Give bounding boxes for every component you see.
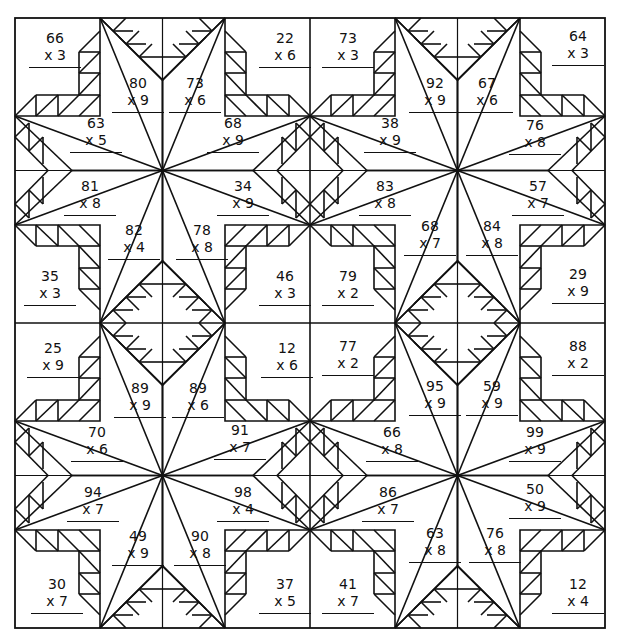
problem-q2-b: 92x 9 xyxy=(405,75,465,113)
multiplier: x 3 xyxy=(548,45,608,62)
multiplier: x 9 xyxy=(108,92,168,109)
answer-line xyxy=(366,461,418,462)
multiplicand: 77 xyxy=(318,338,378,355)
multiplicand: 91 xyxy=(210,422,270,439)
answer-line xyxy=(172,417,224,418)
answer-line xyxy=(214,459,266,460)
problem-q3-g: 94x 7 xyxy=(63,484,123,522)
multiplier: x 7 xyxy=(358,501,418,518)
problem-q2-d: 64x 3 xyxy=(548,28,608,66)
multiplicand: 63 xyxy=(405,525,465,542)
answer-line xyxy=(552,65,604,66)
problem-q4-b: 95x 9 xyxy=(405,378,465,416)
multiplicand: 66 xyxy=(362,424,422,441)
answer-line xyxy=(466,415,518,416)
problem-q3-d: 12x 6 xyxy=(257,340,317,378)
multiplicand: 64 xyxy=(548,28,608,45)
multiplicand: 76 xyxy=(465,525,525,542)
multiplicand: 90 xyxy=(170,528,230,545)
multiplier: x 4 xyxy=(548,593,608,610)
multiplicand: 81 xyxy=(60,178,120,195)
answer-line xyxy=(469,562,521,563)
multiplier: x 6 xyxy=(168,397,228,414)
problem-q1-f: 68x 9 xyxy=(203,115,263,153)
multiplicand: 30 xyxy=(27,576,87,593)
multiplier: x 9 xyxy=(548,283,608,300)
problem-q3-f: 91x 7 xyxy=(210,422,270,460)
problem-q3-c: 89x 6 xyxy=(168,380,228,418)
multiplicand: 94 xyxy=(63,484,123,501)
multiplier: x 3 xyxy=(25,47,85,64)
multiplier: x 8 xyxy=(170,545,230,562)
problem-q4-h: 50x 9 xyxy=(505,481,565,519)
answer-line xyxy=(259,67,311,68)
problem-q4-e: 66x 8 xyxy=(362,424,422,462)
multiplicand: 50 xyxy=(505,481,565,498)
answer-line xyxy=(509,518,561,519)
multiplier: x 6 xyxy=(255,47,315,64)
problem-q2-c: 67x 6 xyxy=(457,75,517,113)
multiplier: x 8 xyxy=(172,239,232,256)
multiplier: x 9 xyxy=(505,498,565,515)
multiplicand: 68 xyxy=(203,115,263,132)
problem-q1-h: 34x 9 xyxy=(213,178,273,216)
multiplier: x 2 xyxy=(548,355,608,372)
multiplicand: 92 xyxy=(405,75,465,92)
problem-q2-g: 83x 8 xyxy=(355,178,415,216)
answer-line xyxy=(552,375,604,376)
multiplicand: 95 xyxy=(405,378,465,395)
multiplier: x 8 xyxy=(465,542,525,559)
problem-q1-g: 81x 8 xyxy=(60,178,120,216)
multiplicand: 88 xyxy=(548,338,608,355)
multiplicand: 67 xyxy=(457,75,517,92)
answer-line xyxy=(466,255,518,256)
answer-line xyxy=(114,417,166,418)
problem-q3-l: 37x 5 xyxy=(255,576,315,614)
multiplicand: 37 xyxy=(255,576,315,593)
problem-q1-k: 35x 3 xyxy=(20,268,80,306)
multiplicand: 83 xyxy=(355,178,415,195)
multiplier: x 5 xyxy=(66,132,126,149)
problem-q4-a: 77x 2 xyxy=(318,338,378,376)
problem-q4-l: 12x 4 xyxy=(548,576,608,614)
multiplicand: 82 xyxy=(104,222,164,239)
multiplier: x 9 xyxy=(462,395,522,412)
multiplier: x 9 xyxy=(405,92,465,109)
answer-line xyxy=(112,112,164,113)
answer-line xyxy=(176,259,228,260)
answer-line xyxy=(64,215,116,216)
multiplicand: 35 xyxy=(20,268,80,285)
problem-q4-d: 88x 2 xyxy=(548,338,608,376)
problem-q2-j: 84x 8 xyxy=(462,218,522,256)
multiplicand: 57 xyxy=(508,178,568,195)
multiplicand: 73 xyxy=(165,75,225,92)
answer-line xyxy=(71,461,123,462)
multiplicand: 38 xyxy=(360,115,420,132)
multiplicand: 63 xyxy=(66,115,126,132)
answer-line xyxy=(207,152,259,153)
problem-q2-h: 57x 7 xyxy=(508,178,568,216)
answer-line xyxy=(27,377,79,378)
answer-line xyxy=(552,303,604,304)
multiplier: x 6 xyxy=(165,92,225,109)
answer-line xyxy=(169,112,221,113)
multiplier: x 5 xyxy=(255,593,315,610)
multiplicand: 66 xyxy=(25,30,85,47)
answer-line xyxy=(217,521,269,522)
multiplier: x 7 xyxy=(63,501,123,518)
answer-line xyxy=(217,215,269,216)
multiplicand: 25 xyxy=(23,340,83,357)
multiplicand: 78 xyxy=(172,222,232,239)
problem-q1-l: 46x 3 xyxy=(255,268,315,306)
multiplicand: 22 xyxy=(255,30,315,47)
problem-q3-a: 25x 9 xyxy=(23,340,83,378)
multiplicand: 12 xyxy=(257,340,317,357)
multiplicand: 49 xyxy=(108,528,168,545)
answer-line xyxy=(322,613,374,614)
multiplier: x 9 xyxy=(360,132,420,149)
multiplicand: 73 xyxy=(318,30,378,47)
multiplicand: 99 xyxy=(505,424,565,441)
multiplier: x 4 xyxy=(213,501,273,518)
problem-q3-j: 90x 8 xyxy=(170,528,230,566)
problem-q3-h: 98x 4 xyxy=(213,484,273,522)
